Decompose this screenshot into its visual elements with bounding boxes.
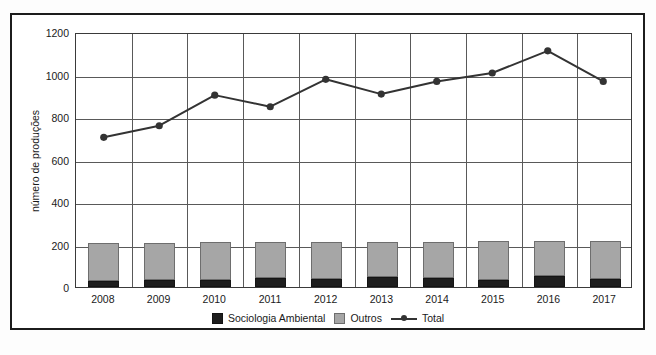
x-axis-tick-label: 2011: [242, 294, 298, 305]
total-data-point-marker: [322, 76, 329, 83]
legend-swatch-dark-square-icon: [212, 313, 223, 324]
y-axis-tick-label: 200: [23, 241, 69, 252]
x-axis-tick-label: 2014: [409, 294, 465, 305]
total-line-series: [76, 34, 631, 287]
legend-label-outros: Outros: [350, 312, 382, 324]
total-data-point-marker: [267, 103, 274, 110]
chart-figure: número de produções 02004006008001000120…: [0, 0, 656, 355]
total-line-path: [104, 51, 604, 137]
total-data-point-marker: [544, 47, 551, 54]
x-axis-tick-label: 2017: [576, 294, 632, 305]
x-axis-tick-label: 2008: [75, 294, 131, 305]
plot-area: [75, 33, 632, 288]
total-data-point-marker: [600, 78, 607, 85]
legend-label-sociologia-ambiental: Sociologia Ambiental: [228, 312, 325, 324]
total-data-point-marker: [433, 78, 440, 85]
chart-legend: Sociologia Ambiental Outros Total: [0, 309, 656, 327]
x-axis-tick-label: 2015: [465, 294, 521, 305]
legend-item-sociologia-ambiental: Sociologia Ambiental: [212, 312, 325, 324]
total-data-point-marker: [211, 92, 218, 99]
legend-line-marker-icon: [391, 313, 417, 324]
legend-item-outros: Outros: [334, 312, 382, 324]
y-axis-tick-label: 800: [23, 113, 69, 124]
legend-label-total: Total: [422, 312, 444, 324]
x-axis-tick-label: 2010: [186, 294, 242, 305]
y-axis-tick-label: 0: [23, 283, 69, 294]
total-data-point-marker: [489, 69, 496, 76]
y-axis-tick-label: 1200: [23, 28, 69, 39]
y-axis-tick-label: 400: [23, 198, 69, 209]
x-axis-tick-label: 2009: [131, 294, 187, 305]
x-axis-tick-label: 2012: [298, 294, 354, 305]
total-data-point-marker: [156, 122, 163, 129]
legend-swatch-gray-square-icon: [334, 313, 345, 324]
x-axis-tick-label: 2013: [353, 294, 409, 305]
total-data-point-marker: [100, 134, 107, 141]
total-data-point-marker: [378, 91, 385, 98]
legend-item-total: Total: [391, 312, 444, 324]
x-axis-tick-label: 2016: [520, 294, 576, 305]
y-axis-tick-label: 600: [23, 156, 69, 167]
y-axis-tick-label: 1000: [23, 71, 69, 82]
